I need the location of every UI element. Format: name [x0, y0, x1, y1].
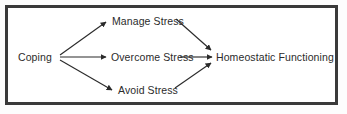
edge-coping-to-avoid — [60, 60, 112, 90]
edge-avoid-to-homeostatic — [175, 63, 211, 88]
node-overcome-stress: Overcome Stress — [111, 52, 194, 63]
node-coping: Coping — [18, 52, 52, 63]
node-manage-stress: Manage Stress — [112, 16, 184, 27]
node-avoid-stress: Avoid Stress — [118, 85, 178, 96]
edge-coping-to-manage — [60, 22, 106, 55]
node-homeostatic-functioning: Homeostatic Functioning — [216, 52, 334, 63]
diagram-container: Coping Manage Stress Overcome Stress Avo… — [0, 0, 347, 114]
